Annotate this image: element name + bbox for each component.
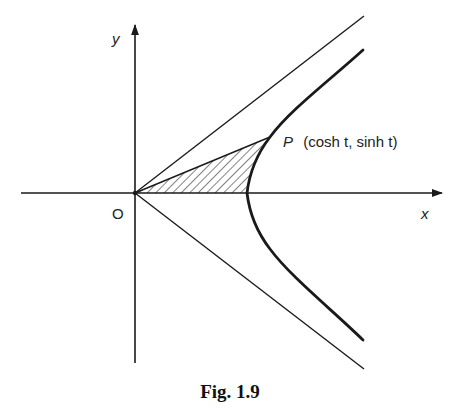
point-p-label: P (cosh t, sinh t)	[283, 133, 397, 150]
asymptote-lower	[135, 193, 364, 369]
y-axis-label: y	[111, 30, 121, 47]
x-axis-label: x	[420, 205, 429, 222]
point-name: P	[283, 133, 293, 150]
figure-caption: Fig. 1.9	[0, 381, 460, 403]
origin-point	[133, 191, 137, 195]
hyperbola-diagram: y x O P (cosh t, sinh t)	[0, 0, 460, 411]
origin-label: O	[112, 205, 124, 222]
point-coords: (cosh t, sinh t)	[303, 133, 397, 150]
